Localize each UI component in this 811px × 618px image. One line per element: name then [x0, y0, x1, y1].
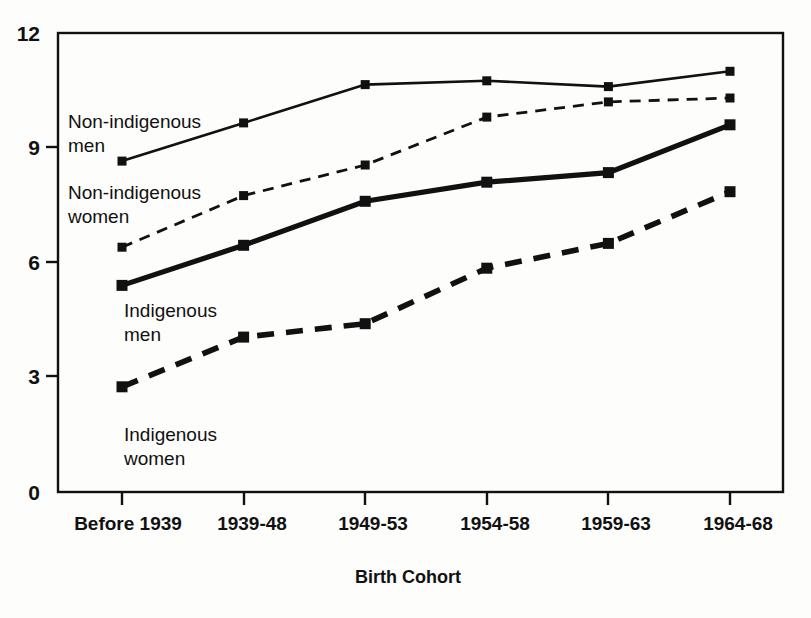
data-point-indigenous-women-1 [238, 332, 249, 343]
data-point-indigenous-men-4 [603, 167, 614, 178]
series-label-indigenous-men-line1: Indigenous [124, 300, 217, 321]
y-axis-label-0: 0 [28, 481, 40, 504]
series-line-indigenous-women [122, 192, 730, 387]
data-point-non-indigenous-men-5 [726, 67, 735, 76]
data-point-indigenous-women-3 [481, 263, 492, 274]
data-point-indigenous-men-0 [117, 280, 128, 291]
line-chart: 12 9 6 3 0 Before 1939 1939-48 1949-53 1… [0, 0, 811, 618]
data-point-indigenous-men-3 [481, 177, 492, 188]
data-point-non-indigenous-women-3 [482, 113, 491, 122]
series-label-indigenous-women-line2: women [123, 448, 185, 469]
series-label-non-indigenous-women-line2: women [67, 206, 129, 227]
series-non-indigenous-men [118, 67, 735, 166]
data-point-non-indigenous-men-3 [482, 76, 491, 85]
series-line-indigenous-men [122, 125, 730, 286]
x-axis-label-2: 1949-53 [338, 513, 408, 534]
data-point-indigenous-men-5 [725, 119, 736, 130]
series-labels: Non-indigenous men Non-indigenous women … [67, 111, 217, 469]
data-point-non-indigenous-men-0 [118, 157, 127, 166]
x-axis-ticks [122, 492, 730, 505]
series-line-non-indigenous-women [122, 98, 730, 247]
series-layer [117, 67, 736, 393]
data-point-non-indigenous-women-1 [239, 191, 248, 200]
series-indigenous-women [117, 186, 736, 392]
x-axis-label-4: 1959-63 [581, 513, 651, 534]
series-indigenous-men [117, 119, 736, 291]
series-label-indigenous-men-line2: men [124, 324, 161, 345]
data-point-non-indigenous-men-1 [239, 118, 248, 127]
series-label-non-indigenous-women-line1: Non-indigenous [68, 182, 201, 203]
data-point-indigenous-men-2 [360, 196, 371, 207]
x-axis-label-0: Before 1939 [74, 513, 182, 534]
x-axis-label-1: 1939-48 [217, 513, 287, 534]
y-axis-label-6: 6 [28, 251, 40, 274]
data-point-indigenous-women-2 [360, 318, 371, 329]
data-point-non-indigenous-women-0 [118, 243, 127, 252]
data-point-non-indigenous-men-2 [361, 80, 370, 89]
series-non-indigenous-women [118, 94, 735, 252]
x-axis-labels: Before 1939 1939-48 1949-53 1954-58 1959… [74, 513, 773, 534]
y-axis-label-3: 3 [28, 365, 40, 388]
data-point-non-indigenous-women-2 [361, 161, 370, 170]
chart-figure: 12 9 6 3 0 Before 1939 1939-48 1949-53 1… [0, 0, 811, 618]
x-axis-label-5: 1964-68 [703, 513, 773, 534]
data-point-indigenous-women-0 [117, 381, 128, 392]
data-point-indigenous-women-5 [725, 186, 736, 197]
series-label-indigenous-women-line1: Indigenous [124, 424, 217, 445]
data-point-indigenous-women-4 [603, 238, 614, 249]
y-axis-ticks [46, 147, 58, 376]
series-line-non-indigenous-men [122, 71, 730, 161]
data-point-non-indigenous-women-4 [604, 97, 613, 106]
y-axis-label-12: 12 [17, 22, 40, 45]
data-point-non-indigenous-women-5 [726, 94, 735, 103]
x-axis-label-3: 1954-58 [460, 513, 530, 534]
x-axis-title: Birth Cohort [355, 567, 461, 587]
y-axis-label-9: 9 [28, 136, 40, 159]
series-label-non-indigenous-men-line1: Non-indigenous [68, 111, 201, 132]
series-label-non-indigenous-men-line2: men [68, 135, 105, 156]
data-point-indigenous-men-1 [238, 240, 249, 251]
y-axis-labels: 12 9 6 3 0 [17, 22, 40, 504]
data-point-non-indigenous-men-4 [604, 82, 613, 91]
